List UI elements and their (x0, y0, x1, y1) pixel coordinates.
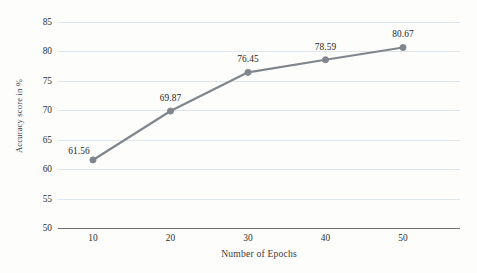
y-axis-tick-label: 85 (43, 17, 52, 27)
y-axis-tick-label: 60 (43, 164, 52, 174)
y-axis-title-text: Accuracy score in % (14, 79, 24, 153)
data-point-label: 61.56 (68, 146, 90, 156)
data-point-marker[interactable] (400, 44, 406, 50)
x-axis-title: Number of Epochs (58, 248, 460, 259)
y-axis-tick-label: 65 (43, 135, 52, 145)
y-axis-title: Accuracy score in % (8, 0, 30, 232)
data-point-marker[interactable] (167, 108, 173, 114)
y-axis-tick-label: 50 (43, 223, 52, 233)
x-axis-tick-label: 20 (166, 233, 175, 243)
x-axis-tick-label: 50 (398, 233, 407, 243)
y-axis-tick-label: 80 (43, 46, 52, 56)
chart-figure: Accuracy score in % 5055606570758085 102… (0, 0, 477, 273)
x-axis-tick-label: 30 (243, 233, 252, 243)
y-axis-tick-label: 55 (43, 194, 52, 204)
data-point-label: 69.87 (160, 93, 182, 103)
series-line (93, 47, 403, 159)
data-point-label: 76.45 (237, 54, 259, 64)
data-point-label: 78.59 (315, 42, 337, 52)
x-axis-tick-label: 10 (88, 233, 97, 243)
data-point-label: 80.67 (392, 29, 414, 39)
series-line-chart (58, 22, 460, 228)
data-point-marker[interactable] (90, 157, 96, 163)
plot-area: 5055606570758085 1020304050 61.5669.8776… (58, 22, 460, 228)
y-axis-tick-label: 70 (43, 105, 52, 115)
data-point-marker[interactable] (245, 69, 251, 75)
y-axis-tick-label: 75 (43, 76, 52, 86)
x-axis-tick-label: 40 (321, 233, 330, 243)
data-point-marker[interactable] (322, 57, 328, 63)
x-axis-baseline (58, 228, 460, 229)
